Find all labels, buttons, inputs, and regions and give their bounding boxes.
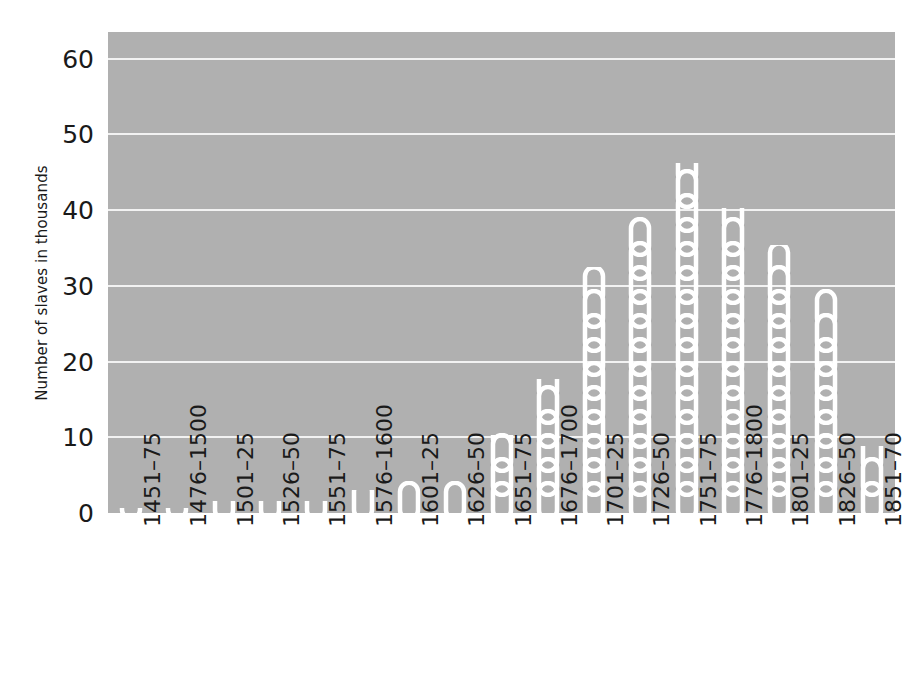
x-axis-tick-label: 1601–25 [418,432,443,527]
chart-figure: Number of slaves in thousands 0102030405… [0,0,922,673]
x-axis-tick-label: 1651–75 [511,432,536,527]
x-axis-tick-label: 1751–75 [696,432,721,527]
x-axis-tick-label: 1776–1800 [742,404,767,527]
chain-link [535,379,561,393]
y-axis-tick-label: 30 [62,271,94,300]
x-axis-tick-label: 1526–50 [279,432,304,527]
chain-link [720,208,746,225]
chain-link [813,289,839,321]
x-axis-tick-label: 1501–25 [233,432,258,527]
chain-link [581,267,607,297]
x-axis-tick-label: 1576–1600 [372,404,397,527]
x-axis-tick-label: 1476–1500 [186,404,211,527]
y-axis-tick-label: 20 [62,347,94,376]
y-axis-tick-label: 60 [62,44,94,73]
chain-link [766,245,792,273]
x-axis-tick-label: 1701–25 [603,432,628,527]
x-axis-tick-label: 1826–50 [835,432,860,527]
x-axis-tick-label: 1626–50 [464,432,489,527]
gridline [108,133,895,135]
y-axis-tick-label: 40 [62,196,94,225]
y-axis-tick-label: 10 [62,423,94,452]
chain-link [627,217,653,249]
x-axis-tick-label: 1451–75 [140,432,165,527]
x-axis-tick-label: 1801–25 [788,432,813,527]
chain-link [674,163,700,177]
y-axis-tick-label: 50 [62,120,94,149]
x-axis-tick-label: 1851–70 [881,432,906,527]
x-axis-tick-label: 1726–50 [649,432,674,527]
gridline [108,58,895,60]
x-axis-tick-labels: 1451–751476–15001501–251526–501551–75157… [0,513,922,673]
plot-area [108,32,895,513]
x-axis-tick-label: 1676–1700 [557,404,582,527]
x-axis-tick-label: 1551–75 [325,432,350,527]
